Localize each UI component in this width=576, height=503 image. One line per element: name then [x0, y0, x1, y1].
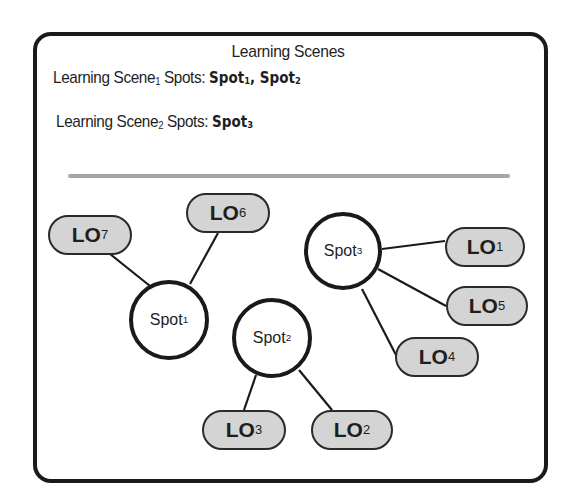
scene-2-label: Learning Scene	[56, 112, 158, 131]
learning-object-6: LO6	[186, 193, 270, 233]
lo-label: LO	[334, 418, 363, 442]
learning-object-7: LO7	[48, 215, 132, 255]
learning-object-5: LO5	[446, 286, 528, 326]
scene-1-line: Learning Scene1 Spots: Spot1, Spot2	[53, 68, 301, 88]
diagram-title: Learning Scenes	[23, 42, 553, 62]
scene-2-index: 2	[158, 119, 163, 131]
spot-label: Spot	[253, 329, 286, 347]
scene-2-line: Learning Scene2 Spots: Spot3	[56, 112, 253, 132]
spot-node-2: Spot2	[232, 298, 312, 378]
spot-label: Spot	[324, 242, 357, 260]
spot-label: Spot	[150, 311, 183, 329]
lo-label: LO	[210, 201, 239, 225]
spot-node-1: Spot1	[129, 280, 209, 360]
scene-1-spot-sep: ,	[250, 69, 260, 87]
scene-1-spot-1-name: Spot	[209, 69, 244, 87]
scene-1-index: 1	[155, 75, 160, 87]
scene-2-spots: Spot3	[212, 113, 253, 131]
scene-1-spots-label: Spots:	[164, 68, 205, 87]
scene-2-spot-1-index: 3	[247, 119, 253, 130]
scene-1-spot-2-index: 2	[295, 75, 301, 86]
separator-line	[68, 174, 510, 178]
spot-node-3: Spot3	[304, 212, 382, 290]
lo-label: LO	[419, 345, 448, 369]
scene-1-spots: Spot1, Spot2	[209, 69, 301, 87]
lo-label: LO	[467, 235, 496, 259]
lo-label: LO	[226, 418, 255, 442]
learning-object-4: LO4	[395, 337, 479, 377]
scene-2-spot-1-name: Spot	[212, 113, 247, 131]
scene-1-spot-2-name: Spot	[260, 69, 295, 87]
scene-1-label: Learning Scene	[53, 68, 155, 87]
learning-object-1: LO1	[445, 227, 525, 267]
lo-label: LO	[72, 223, 101, 247]
learning-object-3: LO3	[202, 410, 286, 450]
scene-2-spots-label: Spots:	[167, 112, 208, 131]
lo-label: LO	[469, 294, 498, 318]
learning-object-2: LO2	[311, 410, 393, 450]
